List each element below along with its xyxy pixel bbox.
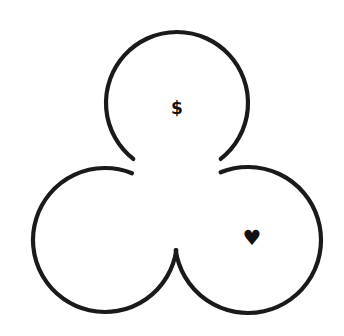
three-circle-diagram <box>0 0 344 336</box>
bottom-left-circle-arc <box>33 168 176 312</box>
diagram-canvas: $ ♥ <box>0 0 344 336</box>
circle-group-top <box>106 32 248 159</box>
circle-group-bottom-left <box>33 168 176 312</box>
heart-symbol: ♥ <box>243 228 262 249</box>
top-circle-arc <box>106 32 248 159</box>
dollar-symbol: $ <box>171 100 183 117</box>
